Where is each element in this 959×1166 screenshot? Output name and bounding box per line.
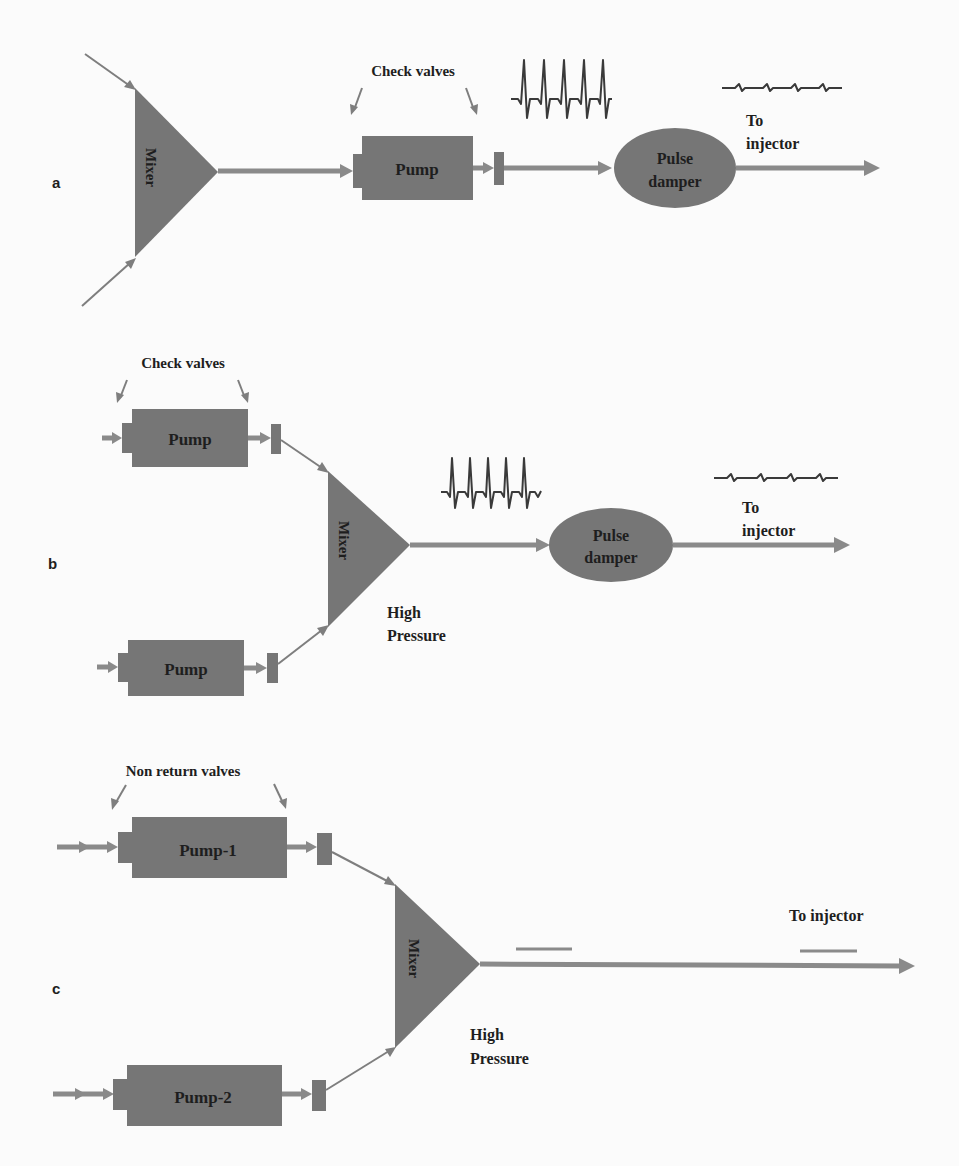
pulsating-flow-wave-icon bbox=[441, 458, 541, 508]
flow-line-to-mixer bbox=[326, 1051, 389, 1090]
check-valve-outlet bbox=[271, 424, 281, 454]
arrow-head-icon bbox=[317, 462, 329, 473]
pump-label: Pump bbox=[395, 160, 438, 179]
injector-label: injector bbox=[746, 135, 799, 153]
pulsating-flow-wave-icon bbox=[511, 60, 612, 118]
check-valve-inlet bbox=[118, 653, 129, 682]
pump-label: Pump-1 bbox=[179, 841, 237, 860]
arrow-head-icon bbox=[279, 798, 287, 809]
damped-flow-wave-icon bbox=[714, 474, 838, 481]
non-return-valve-inlet bbox=[118, 832, 133, 863]
panel-a: a Mixer Pump Check valves Pulse bbox=[52, 54, 880, 306]
injector-label: injector bbox=[742, 522, 795, 540]
check-valves-annotation: Check valves bbox=[371, 63, 455, 79]
panel-label-a: a bbox=[52, 174, 61, 191]
mixer-label: Mixer bbox=[143, 148, 159, 187]
to-label: To bbox=[742, 499, 759, 516]
flow-line-to-mixer bbox=[281, 440, 322, 468]
arrow-head-icon bbox=[124, 80, 136, 90]
inlet-line-top bbox=[85, 54, 130, 86]
arrow-head-icon bbox=[317, 625, 329, 636]
arrow-head-icon bbox=[116, 392, 124, 403]
arrow-head-icon bbox=[470, 104, 478, 115]
flow-line-to-mixer bbox=[278, 630, 322, 664]
hplc-pump-configurations-diagram: a Mixer Pump Check valves Pulse bbox=[0, 0, 959, 1166]
panel-label-c: c bbox=[52, 980, 60, 997]
pressure-label: Pressure bbox=[387, 627, 446, 644]
flow-line-to-mixer bbox=[332, 852, 389, 882]
inlet-line-bottom bbox=[82, 263, 130, 306]
high-label: High bbox=[470, 1026, 504, 1044]
pulse-damper-label-2: damper bbox=[648, 173, 701, 191]
pulse-damper-a bbox=[614, 128, 736, 208]
pulse-damper-label-1: Pulse bbox=[657, 150, 693, 167]
arrow-head-icon bbox=[301, 1088, 312, 1100]
check-valves-annotation: Check valves bbox=[141, 355, 225, 371]
to-label: To bbox=[746, 112, 763, 129]
arrow-head-icon bbox=[260, 432, 271, 444]
arrow-head-icon bbox=[384, 876, 396, 886]
arrow-head-icon bbox=[306, 841, 317, 853]
check-valve-outlet bbox=[494, 152, 504, 185]
damped-flow-wave-icon bbox=[722, 84, 842, 91]
pulse-damper-label-1: Pulse bbox=[593, 527, 629, 544]
arrow-head-icon bbox=[598, 161, 612, 175]
panel-label-b: b bbox=[48, 555, 57, 572]
check-valve-outlet bbox=[267, 653, 278, 683]
arrow-head-icon bbox=[125, 258, 136, 269]
pump-label: Pump bbox=[168, 430, 211, 449]
to-injector-label: To injector bbox=[789, 907, 864, 925]
non-return-valve-outlet bbox=[312, 1080, 326, 1111]
pulse-damper-label-2: damper bbox=[584, 549, 637, 567]
panel-c: c Non return valves Pump-1 Pump-2 bbox=[52, 763, 915, 1126]
arrow-head-icon bbox=[864, 160, 880, 176]
arrow-head-icon bbox=[241, 392, 249, 403]
non-return-valves-annotation: Non return valves bbox=[126, 763, 241, 779]
arrow-head-icon bbox=[536, 538, 550, 552]
pulse-damper-b bbox=[549, 508, 673, 582]
arrow-head-icon bbox=[340, 164, 353, 178]
check-valve-inlet bbox=[122, 423, 133, 453]
arrow-head-icon bbox=[79, 841, 90, 853]
mixer-label: Mixer bbox=[336, 521, 352, 560]
arrow-head-icon bbox=[112, 432, 122, 444]
high-label: High bbox=[387, 604, 421, 622]
pump-label: Pump-2 bbox=[174, 1088, 232, 1107]
arrow-head-icon bbox=[350, 104, 358, 115]
arrow-head-icon bbox=[256, 662, 267, 674]
mixer-label: Mixer bbox=[406, 939, 422, 978]
arrow-head-icon bbox=[108, 661, 118, 673]
arrow-head-icon bbox=[107, 841, 118, 853]
arrow-head-icon bbox=[834, 537, 850, 553]
pump-label: Pump bbox=[164, 660, 207, 679]
arrow-head-icon bbox=[899, 958, 915, 974]
non-return-valve-inlet bbox=[113, 1079, 128, 1110]
pressure-label: Pressure bbox=[470, 1050, 529, 1067]
check-valve-inlet bbox=[353, 154, 363, 188]
panel-b: b Check valves Pump Pump Mixer High bbox=[48, 355, 850, 696]
arrow-head-icon bbox=[103, 1088, 114, 1100]
flow-line bbox=[480, 964, 900, 966]
arrow-head-icon bbox=[75, 1088, 86, 1100]
non-return-valve-outlet bbox=[317, 833, 332, 865]
arrow-head-icon bbox=[483, 162, 494, 174]
